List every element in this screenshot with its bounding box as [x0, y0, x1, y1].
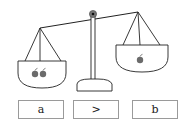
answer-box-a[interactable]: a — [18, 100, 64, 119]
box-label: > — [91, 103, 100, 116]
box-label: b — [151, 103, 158, 116]
left-pan — [18, 28, 66, 88]
answer-box-operator[interactable]: > — [73, 100, 119, 119]
scale-base — [77, 79, 112, 91]
answer-box-b[interactable]: b — [132, 100, 178, 119]
scale-post — [91, 15, 95, 80]
scale-beam — [40, 12, 138, 28]
right-pan — [116, 12, 168, 72]
box-label: a — [38, 103, 45, 116]
